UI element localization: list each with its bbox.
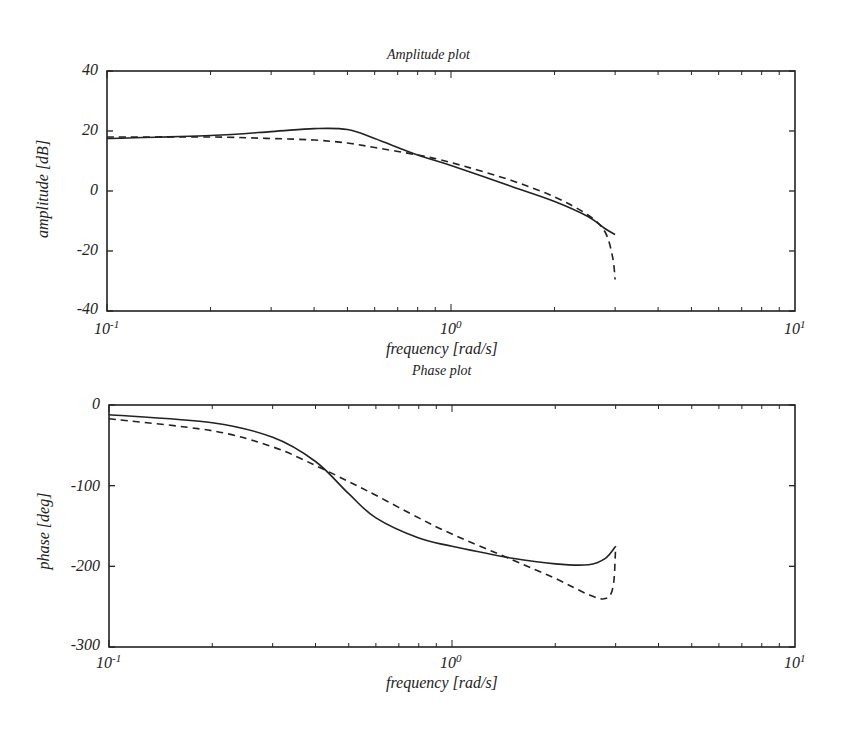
xtick-10-top: 101	[784, 318, 806, 338]
ytick-minus-40: -40	[38, 300, 98, 318]
xtick-10-bottom: 101	[784, 652, 806, 672]
xtick-1-top: 100	[440, 318, 462, 338]
xtick-0.1-bottom: 10-1	[96, 652, 121, 672]
phase-y-label: phase [deg]	[35, 481, 53, 581]
phase-axes	[109, 405, 795, 647]
axes-frame	[107, 71, 795, 311]
axes-frame	[109, 405, 795, 647]
xtick-1-bottom: 100	[440, 652, 462, 672]
amplitude-y-label: amplitude [dB]	[34, 134, 52, 244]
phase-plot-title: Phase plot	[412, 363, 472, 379]
ytick-phase-minus-300: -300	[40, 636, 100, 654]
dashed-series-line	[107, 137, 615, 280]
amplitude-plot-title: Amplitude plot	[387, 47, 470, 63]
solid-series-line	[107, 128, 615, 234]
dashed-series-line	[109, 419, 616, 599]
solid-series-line	[109, 415, 616, 565]
ytick-40: 40	[38, 61, 98, 79]
amplitude-axes	[107, 71, 795, 311]
xtick-0.1-top: 10-1	[94, 318, 119, 338]
phase-x-label: frequency [rad/s]	[386, 674, 498, 692]
ytick-phase-0: 0	[40, 395, 100, 413]
amplitude-x-label: frequency [rad/s]	[386, 340, 498, 358]
